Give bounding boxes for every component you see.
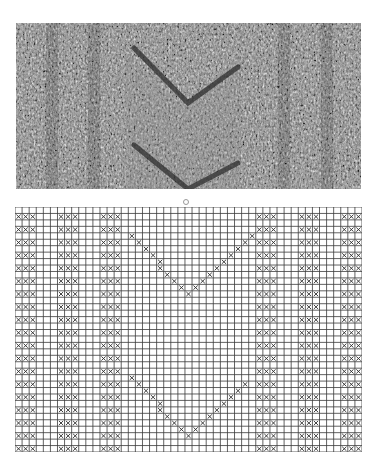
x-symbol <box>314 382 318 386</box>
x-symbol <box>101 421 105 425</box>
x-symbol <box>271 395 275 399</box>
x-symbol <box>73 344 77 348</box>
x-symbol <box>257 318 261 322</box>
x-symbol <box>23 395 27 399</box>
x-symbol <box>349 266 353 270</box>
x-symbol <box>257 305 261 309</box>
x-symbol <box>59 344 63 348</box>
x-symbol <box>101 395 105 399</box>
x-symbol <box>66 369 70 373</box>
x-symbol <box>108 215 112 219</box>
x-symbol <box>342 253 346 257</box>
x-symbol <box>349 292 353 296</box>
x-symbol <box>31 408 35 412</box>
x-symbol <box>314 253 318 257</box>
x-symbol <box>342 331 346 335</box>
x-symbol <box>342 434 346 438</box>
x-symbol <box>108 382 112 386</box>
x-symbol <box>356 279 360 283</box>
x-symbol <box>179 286 183 290</box>
x-symbol <box>300 292 304 296</box>
x-symbol <box>257 292 261 296</box>
x-symbol <box>314 395 318 399</box>
x-symbol <box>31 447 35 451</box>
x-symbol <box>23 408 27 412</box>
x-symbol <box>349 318 353 322</box>
x-symbol <box>16 331 20 335</box>
x-symbol <box>73 318 77 322</box>
x-symbol <box>271 331 275 335</box>
x-symbol <box>116 382 120 386</box>
chart-grid <box>15 207 362 452</box>
x-symbol <box>23 331 27 335</box>
x-symbol <box>158 408 162 412</box>
x-symbol <box>23 344 27 348</box>
x-symbol <box>101 356 105 360</box>
x-symbol <box>257 408 261 412</box>
x-symbol <box>349 382 353 386</box>
x-symbol <box>349 279 353 283</box>
x-symbol <box>307 382 311 386</box>
x-symbol <box>356 228 360 232</box>
x-symbol <box>264 331 268 335</box>
x-symbol <box>342 344 346 348</box>
x-symbol <box>16 421 20 425</box>
x-symbol <box>66 305 70 309</box>
x-symbol <box>300 318 304 322</box>
x-symbol <box>300 421 304 425</box>
x-symbol <box>264 318 268 322</box>
x-symbol <box>116 228 120 232</box>
x-symbol <box>23 292 27 296</box>
x-symbol <box>349 344 353 348</box>
x-symbol <box>186 434 190 438</box>
x-symbol <box>314 331 318 335</box>
x-symbol <box>31 253 35 257</box>
x-symbol <box>101 331 105 335</box>
x-symbol <box>116 344 120 348</box>
x-symbol <box>342 421 346 425</box>
x-symbol <box>257 369 261 373</box>
x-symbol <box>23 228 27 232</box>
x-symbol <box>342 382 346 386</box>
x-symbol <box>116 253 120 257</box>
x-symbol <box>73 279 77 283</box>
x-symbol <box>314 447 318 451</box>
x-symbol <box>73 240 77 244</box>
x-symbol <box>271 228 275 232</box>
x-symbol <box>186 292 190 296</box>
swatch-texture <box>16 23 361 189</box>
x-symbol <box>59 382 63 386</box>
x-symbol <box>23 421 27 425</box>
x-symbol <box>23 318 27 322</box>
x-symbol <box>264 356 268 360</box>
x-symbol <box>356 434 360 438</box>
x-symbol <box>16 369 20 373</box>
x-symbol <box>342 369 346 373</box>
x-symbol <box>59 228 63 232</box>
x-symbol <box>158 402 162 406</box>
x-symbol <box>314 434 318 438</box>
x-symbol <box>101 215 105 219</box>
x-symbol <box>271 318 275 322</box>
x-symbol <box>300 344 304 348</box>
x-symbol <box>16 344 20 348</box>
x-symbol <box>349 434 353 438</box>
x-symbol <box>59 266 63 270</box>
x-symbol <box>16 240 20 244</box>
x-symbol <box>31 331 35 335</box>
x-symbol <box>31 369 35 373</box>
x-symbol <box>271 240 275 244</box>
x-symbol <box>307 356 311 360</box>
x-symbol <box>73 408 77 412</box>
x-symbol <box>349 253 353 257</box>
x-symbol <box>116 305 120 309</box>
x-symbol <box>222 402 226 406</box>
x-symbol <box>59 421 63 425</box>
x-symbol <box>116 434 120 438</box>
x-symbol <box>349 240 353 244</box>
x-symbol <box>271 356 275 360</box>
x-symbol <box>59 408 63 412</box>
x-symbol <box>349 331 353 335</box>
x-symbol <box>66 421 70 425</box>
x-symbol <box>271 447 275 451</box>
